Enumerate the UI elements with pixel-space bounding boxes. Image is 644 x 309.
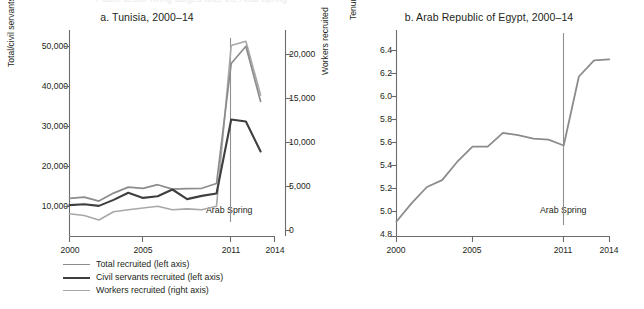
legend-item-total: Total recruited (left axis) xyxy=(63,258,223,271)
figure-root: Public sector hiring surged after the Ar… xyxy=(0,0,644,309)
legend-swatch-total xyxy=(63,264,90,265)
panel-tunisia: a. Tunisia, 2000–14 Total/civil servants… xyxy=(0,0,322,309)
series-total-recruited xyxy=(70,46,261,201)
legend-label-workers: Workers recruited (right axis) xyxy=(96,284,209,297)
legend-item-workers: Workers recruited (right axis) xyxy=(63,284,223,297)
legend-label-civil-servants: Civil servants recruited (left axis) xyxy=(96,271,223,284)
panel-b-x-ticks xyxy=(397,237,610,243)
series-civil-servants-recruited xyxy=(70,120,261,206)
panel-a-x-ticks xyxy=(70,237,275,243)
panel-egypt: b. Arab Republic of Egypt, 2000–14 Tenur… xyxy=(322,0,644,309)
panel-b-y-ticks xyxy=(391,51,397,237)
series-tenured-government-employees xyxy=(397,59,610,221)
panel-a-left-ticks xyxy=(64,47,70,207)
panel-b-plot xyxy=(322,0,644,309)
legend-item-civil-servants: Civil servants recruited (left axis) xyxy=(63,271,223,284)
panel-a-right-ticks xyxy=(286,55,292,231)
legend-swatch-civil-servants xyxy=(63,277,90,279)
legend: Total recruited (left axis) Civil servan… xyxy=(63,258,223,298)
legend-label-total: Total recruited (left axis) xyxy=(96,258,189,271)
legend-swatch-workers xyxy=(63,290,90,291)
